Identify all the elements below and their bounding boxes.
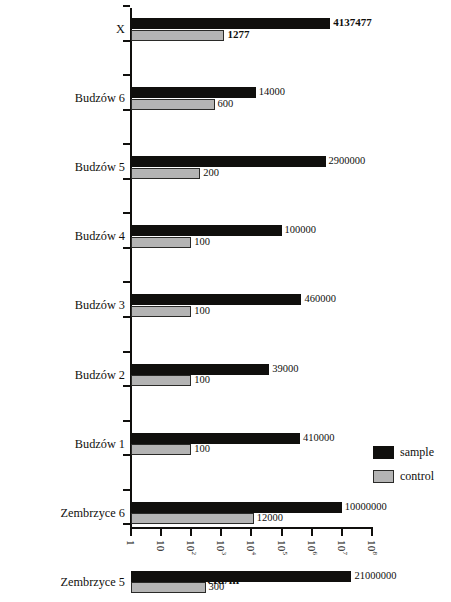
chart-row: Zembrzyce 219000350 [0,389,451,424]
chart-row: Zembrzyce 415000004000 [0,320,451,355]
chart-row: Budzów 52900000200 [0,78,451,113]
chart-row: Maków Podhalański 3170000400 [0,458,451,493]
chart-row: Budzów 4100000100 [0,113,451,148]
chart-row: Budzów 3460000100 [0,147,451,182]
category-label: Zembrzyce 5 [60,576,125,589]
chart-row: Zembrzyce 521000000300 [0,285,451,320]
chart-row: Budzów 1410000100 [0,216,451,251]
y-axis-tick [123,5,130,7]
chart-row: X41374771277 [0,9,451,44]
bar-sample [131,571,351,582]
chart-row: Budzów 614000600 [0,44,451,79]
bar-value-control: 300 [207,581,225,592]
bar-value-sample: 4137477 [331,17,372,28]
bar-value-control: 1277 [225,29,249,40]
bar-value-sample: 21000000 [352,570,396,581]
chart-row: Zembrzyce 1150100 [0,424,451,459]
category-label: X [116,23,125,36]
bar-chart: 110102103104105106107108 sample control … [0,0,451,602]
bar-control [131,582,206,593]
chart-row: Budzów 239000100 [0,182,451,217]
chart-row: Zembrzyce 61000000012000 [0,251,451,286]
chart-row: Maków Podhalański 2350000150 [0,493,451,528]
chart-row: Zembrzyce 36100000100 [0,355,451,390]
bar-control [131,30,224,41]
chart-row: Baczyn 119000000550 [0,527,451,562]
